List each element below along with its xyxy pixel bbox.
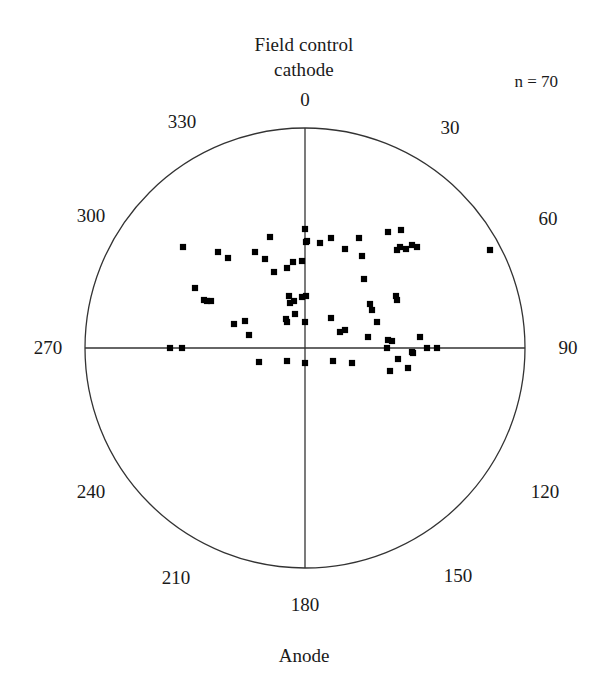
data-point <box>384 345 390 351</box>
data-point <box>367 301 373 307</box>
data-point <box>387 368 393 374</box>
data-point <box>328 235 334 241</box>
data-point <box>256 359 262 365</box>
axis-tick-label-270: 270 <box>34 337 63 359</box>
data-point <box>414 244 420 250</box>
data-point <box>361 276 367 282</box>
data-point <box>424 345 430 351</box>
data-point <box>398 227 404 233</box>
axis-tick-label-0: 0 <box>300 89 310 111</box>
data-point <box>246 332 252 338</box>
axis-tick-label-120: 120 <box>531 481 560 503</box>
axis-tick-label-210: 210 <box>162 567 191 589</box>
data-point <box>252 249 258 255</box>
data-point <box>167 345 173 351</box>
data-point <box>284 319 290 325</box>
data-point <box>262 256 268 262</box>
bottom-caption: Anode <box>0 645 608 667</box>
data-point <box>225 255 231 261</box>
axis-tick-label-30: 30 <box>441 117 460 139</box>
data-point <box>208 298 214 304</box>
data-point <box>356 235 362 241</box>
data-point <box>302 319 308 325</box>
data-point <box>292 311 298 317</box>
data-point <box>291 298 297 304</box>
axis-tick-label-60: 60 <box>539 208 558 230</box>
data-point <box>290 259 296 265</box>
data-point <box>215 249 221 255</box>
data-point <box>242 318 248 324</box>
data-point <box>374 319 380 325</box>
data-point <box>317 240 323 246</box>
data-point <box>394 247 400 253</box>
data-point <box>302 226 308 232</box>
data-point <box>271 269 277 275</box>
data-point <box>389 338 395 344</box>
data-point <box>302 360 308 366</box>
axis-tick-label-330: 330 <box>168 111 197 133</box>
polar-scatter-figure: Field control cathode n = 70 03060901201… <box>0 0 608 679</box>
data-point <box>434 345 440 351</box>
data-point <box>303 293 309 299</box>
data-point <box>304 238 310 244</box>
data-point <box>405 365 411 371</box>
data-point <box>359 253 365 259</box>
axis-tick-label-240: 240 <box>77 481 106 503</box>
axis-tick-label-90: 90 <box>559 337 578 359</box>
data-point <box>192 285 198 291</box>
data-point <box>284 265 290 271</box>
data-point <box>487 247 493 253</box>
axis-tick-label-300: 300 <box>77 205 106 227</box>
data-point <box>385 229 391 235</box>
axis-tick-label-150: 150 <box>444 565 473 587</box>
data-point <box>369 307 375 313</box>
axis-tick-label-180: 180 <box>291 594 320 616</box>
data-point <box>342 246 348 252</box>
data-point <box>330 358 336 364</box>
data-points-layer <box>167 226 493 374</box>
data-point <box>410 350 416 356</box>
data-point <box>349 360 355 366</box>
data-point <box>267 234 273 240</box>
data-point <box>284 358 290 364</box>
data-point <box>342 327 348 333</box>
data-point <box>403 246 409 252</box>
data-point <box>395 356 401 362</box>
data-point <box>417 334 423 340</box>
data-point <box>180 244 186 250</box>
data-point <box>365 334 371 340</box>
data-point <box>179 345 185 351</box>
data-point <box>394 297 400 303</box>
data-point <box>328 315 334 321</box>
data-point <box>299 258 305 264</box>
data-point <box>231 321 237 327</box>
